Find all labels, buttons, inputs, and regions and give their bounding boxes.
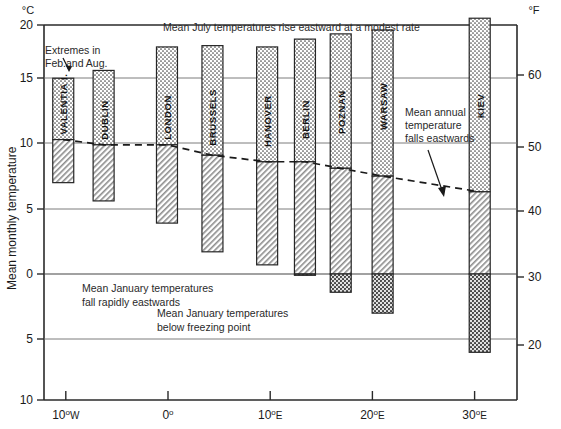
january-fall-note-line1: Mean January temperatures <box>82 282 213 294</box>
bar-winter-segment <box>93 145 114 201</box>
y-tick-20: 20 <box>20 18 34 32</box>
station-bar[interactable]: KIEV <box>469 18 490 352</box>
station-bar[interactable]: BERLIN <box>294 39 315 275</box>
bar-winter-segment <box>372 176 393 274</box>
f-tick-60: 60 <box>528 68 542 82</box>
y-tick-minus10: 10 <box>20 393 34 407</box>
bar-station-label: BERLIN <box>300 100 311 139</box>
freezing-note-line1: Mean January temperatures <box>157 307 288 319</box>
bar-winter-segment <box>294 162 315 274</box>
y-axis-title: Mean monthly temperature <box>5 146 19 290</box>
f-tick-40: 40 <box>528 204 542 218</box>
y-tick-minus5: 5 <box>26 332 33 346</box>
bar-below-freezing-segment <box>372 274 393 313</box>
station-bar[interactable]: VALENTIA I. <box>53 74 74 183</box>
station-bar[interactable]: DUBLIN <box>93 70 114 201</box>
annual-note-line1: Mean annual <box>405 106 466 118</box>
bar-winter-segment <box>469 192 490 274</box>
extremes-note-line1: Extremes in <box>45 44 101 56</box>
x-tick-label-4: 30oE <box>462 408 487 423</box>
bar-winter-segment <box>53 140 74 183</box>
bar-station-label: KIEV <box>475 94 486 119</box>
climate-chart: °C °F 20 15 10 5 0 5 10 60 50 40 <box>0 0 561 429</box>
bar-station-label: WARSAW <box>378 83 389 130</box>
bar-station-label: HANOVER <box>262 95 273 147</box>
bar-below-freezing-segment <box>294 274 315 275</box>
bar-station-label: VALENTIA I. <box>58 74 69 135</box>
july-note: Mean July temperatures rise eastward at … <box>163 21 420 33</box>
bar-winter-segment <box>257 162 278 265</box>
left-axis-unit: °C <box>22 4 34 16</box>
station-bar[interactable]: LONDON <box>156 47 177 223</box>
bar-station-label: DUBLIN <box>99 100 110 140</box>
f-tick-30: 30 <box>528 270 542 284</box>
f-tick-20: 20 <box>528 338 542 352</box>
x-tick-label-3: 20oE <box>360 408 385 423</box>
bar-below-freezing-segment <box>330 274 351 292</box>
bar-winter-segment <box>330 168 351 274</box>
f-tick-50: 50 <box>528 140 542 154</box>
bar-winter-segment <box>202 155 223 252</box>
station-bar[interactable]: BRUSSELS <box>202 46 223 252</box>
y-tick-15: 15 <box>20 71 34 85</box>
freezing-note-line2: below freezing point <box>157 321 250 333</box>
bar-station-label: BRUSSELS <box>207 89 218 146</box>
y-tick-10: 10 <box>20 136 34 150</box>
bar-station-label: LONDON <box>162 95 173 140</box>
bar-below-freezing-segment <box>469 274 490 352</box>
bar-station-label: POZNAN <box>336 90 347 134</box>
station-bar[interactable]: POZNAN <box>330 34 351 292</box>
y-tick-0: 0 <box>26 267 33 281</box>
station-bar[interactable]: HANOVER <box>257 47 278 265</box>
station-bar[interactable]: WARSAW <box>372 30 393 313</box>
bar-winter-segment <box>156 145 177 223</box>
right-axis-unit: °F <box>528 4 539 16</box>
extremes-note-line2: Feb.and Aug. <box>45 57 107 69</box>
annual-note-line2: temperature <box>405 119 462 131</box>
annual-note-line3: falls eastwards <box>405 132 474 144</box>
x-tick-label-2: 10oE <box>258 408 283 423</box>
chart-canvas: °C °F 20 15 10 5 0 5 10 60 50 40 <box>0 0 561 429</box>
y-tick-5: 5 <box>26 202 33 216</box>
